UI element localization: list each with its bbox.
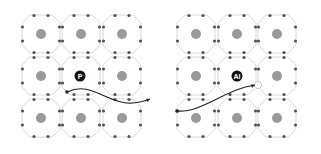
edge-atom: [254, 67, 257, 70]
edge-atom: [46, 14, 49, 17]
edge-atom: [21, 109, 24, 112]
edge-atom: [98, 67, 101, 70]
edge-atom: [217, 25, 220, 28]
edge-atom: [86, 14, 89, 17]
vacancy-site: [255, 82, 262, 89]
edge-atom: [213, 25, 216, 28]
edge-atom: [72, 56, 75, 59]
edge-atom: [127, 98, 130, 101]
edge-atom: [98, 25, 101, 28]
edge-atom: [58, 25, 61, 28]
edge-atom: [21, 67, 24, 70]
edge-atom: [228, 56, 231, 59]
edge-atom: [32, 93, 35, 96]
edge-atom: [46, 135, 49, 138]
edge-atom: [282, 56, 285, 59]
edge-atom: [102, 39, 105, 42]
edge-atom: [102, 123, 105, 126]
edge-atom: [217, 67, 220, 70]
edge-atom: [72, 51, 75, 54]
edge-atom: [113, 14, 116, 17]
edge-atom: [268, 135, 271, 138]
edge-atom: [139, 81, 142, 84]
edge-atom: [32, 98, 35, 101]
edge-atom: [61, 25, 64, 28]
edge-atom: [176, 39, 179, 42]
lattice-panel-right: Al: [175, 14, 297, 138]
edge-atom: [113, 56, 116, 59]
center-atom: [117, 71, 127, 81]
edge-atom: [58, 123, 61, 126]
edge-atom: [201, 51, 204, 54]
edge-atom: [98, 39, 101, 42]
edge-atom: [21, 25, 24, 28]
edge-atom: [228, 98, 231, 101]
edge-atom: [61, 123, 64, 126]
edge-atom: [187, 56, 190, 59]
edge-atom: [127, 51, 130, 54]
edge-atom: [294, 39, 297, 42]
center-atom: [36, 29, 46, 39]
edge-atom: [257, 25, 260, 28]
edge-atom: [242, 56, 245, 59]
center-atom: [117, 113, 127, 123]
edge-atom: [201, 56, 204, 59]
edge-atom: [58, 109, 61, 112]
edge-atom: [217, 123, 220, 126]
center-atom: [191, 29, 201, 39]
edge-atom: [113, 135, 116, 138]
edge-atom: [257, 67, 260, 70]
center-atom: [272, 113, 282, 123]
edge-atom: [61, 39, 64, 42]
edge-atom: [139, 39, 142, 42]
edge-atom: [176, 25, 179, 28]
edge-atom: [228, 135, 231, 138]
edge-atom: [268, 51, 271, 54]
edge-atom: [139, 123, 142, 126]
edge-atom: [127, 135, 130, 138]
edge-atom: [139, 109, 142, 112]
edge-atom: [201, 135, 204, 138]
edge-atom: [21, 123, 24, 126]
edge-atom: [201, 14, 204, 17]
edge-atom: [46, 93, 49, 96]
edge-atom: [102, 81, 105, 84]
edge-atom: [102, 25, 105, 28]
dopant-atom-label: P: [78, 73, 83, 80]
edge-atom: [187, 135, 190, 138]
center-atom: [272, 29, 282, 39]
edge-atom: [282, 14, 285, 17]
center-atom: [36, 113, 46, 123]
edge-atom: [242, 135, 245, 138]
center-atom: [232, 113, 242, 123]
edge-atom: [58, 39, 61, 42]
edge-atom: [242, 51, 245, 54]
edge-atom: [21, 39, 24, 42]
center-atom: [191, 71, 201, 81]
edge-atom: [139, 25, 142, 28]
edge-atom: [72, 14, 75, 17]
edge-atom: [213, 81, 216, 84]
edge-atom: [32, 135, 35, 138]
edge-atom: [127, 14, 130, 17]
edge-atom: [254, 109, 257, 112]
edge-atom: [98, 123, 101, 126]
edge-atom: [113, 51, 116, 54]
center-atom: [272, 71, 282, 81]
edge-atom: [58, 81, 61, 84]
edge-atom: [187, 98, 190, 101]
center-atom: [117, 29, 127, 39]
edge-atom: [294, 67, 297, 70]
edge-atom: [268, 93, 271, 96]
edge-atom: [46, 51, 49, 54]
edge-atom: [257, 109, 260, 112]
dopant-atom-label: Al: [234, 73, 241, 80]
edge-atom: [282, 98, 285, 101]
edge-atom: [254, 39, 257, 42]
center-atom: [76, 113, 86, 123]
edge-atom: [46, 56, 49, 59]
edge-atom: [254, 25, 257, 28]
edge-atom: [86, 51, 89, 54]
edge-atom: [187, 93, 190, 96]
edge-atom: [72, 93, 75, 96]
